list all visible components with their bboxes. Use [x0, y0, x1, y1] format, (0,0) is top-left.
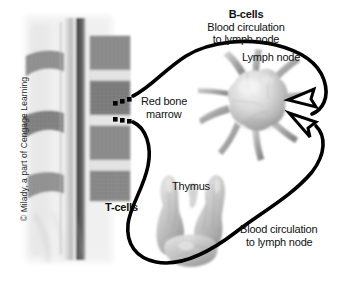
label-b-cells-line3: to lymph node	[192, 33, 300, 46]
label-red-bone-marrow-line1: Red bone	[141, 95, 187, 108]
figure-canvas: B-cells Blood circulation to lymph node …	[0, 0, 345, 281]
label-b-cells-line2: Blood circulation	[192, 21, 300, 34]
label-t-cells: T-cells	[105, 201, 138, 214]
label-thymus: Thymus	[172, 180, 210, 193]
label-t-cells-line2: Blood circulation	[240, 223, 317, 236]
label-t-cells-line3: to lymph node	[246, 236, 313, 249]
label-red-bone-marrow-line2: marrow	[146, 108, 181, 121]
bottom-caption	[74, 272, 264, 281]
label-b-cells: B-cells	[200, 8, 292, 21]
copyright-credit: © Milady, a part of Cengage Learning	[19, 69, 29, 229]
label-lymph-node: Lymph node	[242, 51, 300, 64]
